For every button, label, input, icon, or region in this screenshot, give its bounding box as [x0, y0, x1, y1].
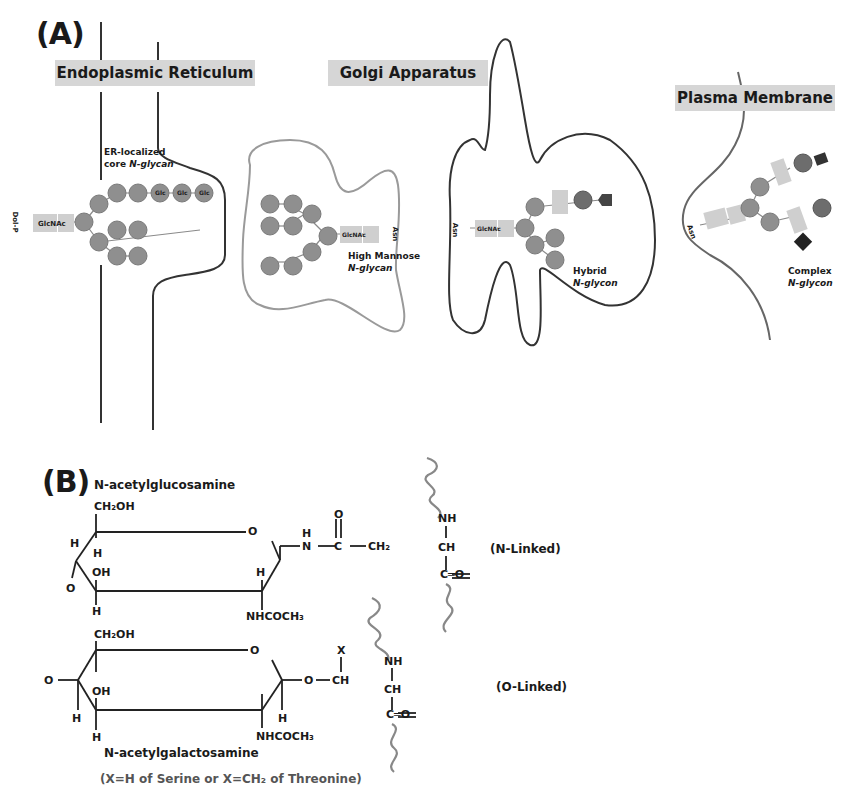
glcnac-h3: H	[92, 605, 101, 618]
complex-caption: Complex N-glycon	[788, 265, 833, 289]
n-linked-label: (N-Linked)	[490, 542, 561, 556]
hybrid-glycan-tree: GlcNAc	[470, 190, 612, 269]
svg-text:GlcNAc: GlcNAc	[477, 225, 501, 232]
glcnac-ring-o: O	[248, 525, 257, 538]
galnac-o-left: O	[44, 674, 53, 687]
n-peptide-backbone-top	[426, 458, 441, 518]
compartment-label-er: Endoplasmic Reticulum	[55, 60, 255, 86]
panel-b-label: (B)	[42, 464, 89, 499]
glcnac-o-left: O	[66, 582, 75, 595]
galnac-ring-o: O	[250, 644, 259, 657]
panel-a-graphics: GlcNAc Glc Glc Glc Gl	[0, 0, 849, 806]
galnac-nhcoch3: NHCOCH₃	[256, 730, 314, 743]
glcnac-oh: OH	[92, 566, 111, 579]
glcnac-h1: H	[70, 537, 79, 550]
compartment-label-golgi: Golgi Apparatus	[328, 60, 488, 86]
high-mannose-anchor-label: Asn	[389, 227, 401, 242]
galnac-ch2oh: CH₂OH	[94, 628, 135, 641]
glcnac-link-h: H	[302, 527, 311, 540]
compartment-label-pm: Plasma Membrane	[675, 85, 835, 111]
glcnac-ring-structure	[72, 514, 366, 610]
svg-text:Glc: Glc	[155, 189, 166, 196]
galnac-h3: H	[278, 712, 287, 725]
glcnac-ch2oh: CH₂OH	[94, 500, 135, 513]
galnac-ch: CH	[332, 674, 349, 687]
o-peptide-backbone-top	[368, 598, 388, 660]
hybrid-caption: Hybrid N-glycon	[573, 265, 618, 289]
o-peptide-ch: CH	[384, 683, 401, 696]
svg-text:Glc: Glc	[177, 189, 188, 196]
high-mannose-caption: High Mannose N-glycan	[348, 250, 420, 274]
galnac-x: X	[337, 644, 345, 657]
glcnac-h4: H	[256, 566, 265, 579]
glcnac-link-c: C	[334, 540, 342, 553]
n-peptide-ch: CH	[438, 541, 455, 554]
galnac-h1: H	[72, 712, 81, 725]
glcnac-h2: H	[93, 547, 102, 560]
galnac-name: N-acetylgalactosamine	[104, 746, 259, 760]
glcnac-link-n: N	[302, 540, 311, 553]
glcnac-nhcoch3: NHCOCH₃	[246, 610, 304, 623]
n-peptide-nh: NH	[438, 512, 456, 525]
svg-text:GlcNAc: GlcNAc	[342, 231, 366, 238]
hybrid-anchor-label: Asn	[449, 223, 461, 238]
er-anchor-label: Dol-P	[9, 211, 21, 232]
o-peptide-nh: NH	[384, 655, 402, 668]
svg-text:Glc: Glc	[199, 189, 210, 196]
galnac-oh: OH	[92, 685, 111, 698]
panel-a-label: (A)	[36, 16, 84, 51]
glcnac-link-ch2: CH₂	[368, 540, 390, 553]
glcnac-name: N-acetylglucosamine	[94, 478, 235, 492]
o-linked-label: (O-Linked)	[496, 680, 567, 694]
footnote: (X=H of Serine or X=CH₂ of Threonine)	[100, 772, 362, 786]
er-glycan-tree: GlcNAc Glc Glc Glc	[33, 184, 213, 265]
er-membrane-right	[153, 42, 225, 430]
galnac-h2: H	[92, 731, 101, 744]
o-peptide-co: C═O	[386, 708, 410, 721]
er-glycan-caption: ER-localized core N-glycan	[104, 146, 174, 170]
galnac-link-o: O	[304, 674, 313, 687]
glcnac-link-o: O	[334, 508, 343, 521]
n-peptide-co: C═O	[440, 568, 464, 581]
svg-text:GlcNAc: GlcNAc	[38, 220, 66, 228]
